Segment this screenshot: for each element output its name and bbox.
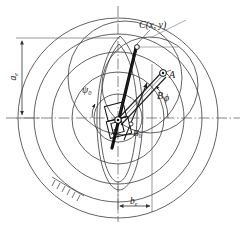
hatch-2 bbox=[57, 183, 60, 189]
label-coupler-point: C(x, y) bbox=[139, 20, 166, 30]
hatch-4 bbox=[67, 189, 70, 195]
diagram-canvas bbox=[0, 0, 244, 225]
label-joint-b: B bbox=[157, 91, 163, 101]
hatch-1 bbox=[52, 180, 55, 186]
label-angle-phi: ϕ bbox=[164, 93, 169, 103]
label-dimension-ae: ae bbox=[9, 73, 19, 80]
label-angle-psi: ψ0 bbox=[82, 85, 91, 95]
label-dimension-be: be bbox=[130, 197, 137, 207]
label-psi-sub: 0 bbox=[88, 89, 91, 96]
pivot-joint-A-dot bbox=[162, 72, 164, 74]
label-fixed-pivot-a0: A0 bbox=[111, 128, 119, 137]
label-be-sub: e bbox=[135, 201, 138, 207]
hatch-3 bbox=[62, 186, 65, 192]
label-fixed-pivot-b0: B0 bbox=[133, 129, 141, 138]
pivot-joint-B0 bbox=[129, 122, 133, 126]
label-a0-base: A bbox=[111, 127, 117, 137]
label-ae-base: a bbox=[8, 76, 18, 81]
kinematic-diagram-figure: C(x, y) A B A0 B0 ϕ ψ0 ae be bbox=[0, 0, 244, 225]
label-b0-base: B bbox=[133, 128, 139, 138]
label-b0-sub: 0 bbox=[139, 133, 142, 139]
hatch-6 bbox=[77, 195, 80, 201]
label-a0-sub: 0 bbox=[117, 132, 120, 138]
label-joint-a: A bbox=[169, 70, 175, 80]
pivot-center-A0-dot bbox=[117, 119, 120, 122]
label-ae-sub: e bbox=[13, 73, 19, 76]
angle-arc-psi bbox=[92, 104, 95, 118]
hatch-5 bbox=[72, 192, 75, 198]
